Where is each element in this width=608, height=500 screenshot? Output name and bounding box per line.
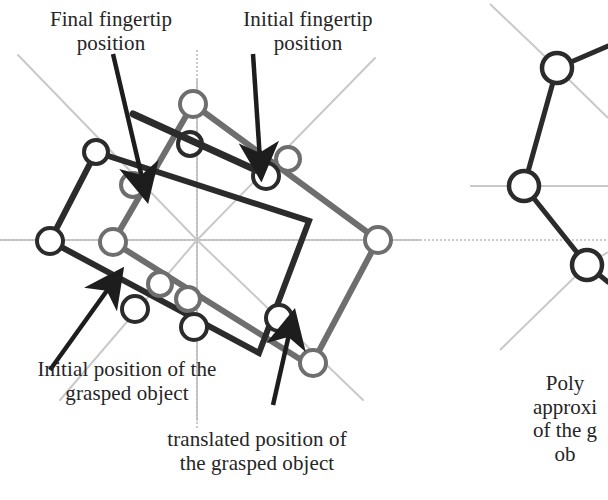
- fingertip-pointer-bar: [133, 114, 256, 170]
- initial-fingertip-circles: [37, 132, 292, 340]
- polygonal-approximation-panel: [470, 4, 608, 350]
- initial-fingertip-circle-1: [37, 228, 63, 254]
- grasped-object-diagram: [0, 0, 608, 500]
- translated-fingertip-circle-6: [176, 287, 200, 311]
- translated-fingertip-circle-0: [180, 91, 206, 117]
- arrow-initial-fingertip: [253, 54, 260, 160]
- initial-fingertip-circle-5: [122, 296, 148, 322]
- initial-fingertip-circle-4: [181, 314, 207, 340]
- translated-fingertip-circle-4: [365, 227, 391, 253]
- translated-fingertip-circle-2: [100, 229, 126, 255]
- polygon-guide-3: [500, 265, 587, 350]
- polygon-vertex-1: [509, 171, 539, 201]
- arrow-initial-object: [50, 285, 111, 370]
- translated-fingertip-circle-5: [148, 272, 172, 296]
- translated-position-of-grasped-object: [113, 104, 378, 366]
- translated-fingertip-circle-7: [300, 350, 326, 376]
- translated-fingertip-circles: [100, 91, 391, 376]
- translated-fingertip-circle-3: [276, 147, 300, 171]
- initial-fingertip-circle-0: [84, 140, 108, 164]
- polygon-vertex-0: [542, 53, 572, 83]
- polygon-vertex-2: [572, 250, 602, 280]
- fingertip-pointer-bar: [133, 114, 256, 170]
- initial-fingertip-circle-6: [266, 305, 292, 331]
- polygon-edge-0: [524, 68, 557, 186]
- translated-object-outline: [113, 104, 378, 366]
